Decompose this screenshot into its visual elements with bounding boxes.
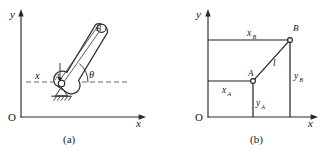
panel-b-origin-label: O — [195, 111, 203, 123]
panel-b-x-axis — [208, 114, 318, 119]
panel-a: y x O x A B θ (a) — [8, 8, 146, 146]
panel-a-rod-top-label: B — [96, 23, 101, 33]
panel-b-point-A-label: A — [247, 68, 254, 78]
panel-b-xb-subscript: B — [253, 34, 257, 40]
panel-b-ya-label: y A — [255, 98, 265, 110]
panel-b-xa-label: x A — [221, 85, 232, 97]
figure-root: y x O x A B θ (a) — [0, 0, 330, 151]
panel-b-ya-base: y — [255, 98, 261, 108]
panel-a-caption: (a) — [63, 133, 76, 146]
panel-a-ground-hatching — [54, 96, 72, 100]
panel-b-yb-label: y B — [293, 71, 303, 83]
panel-a-offset-label: x — [34, 70, 40, 81]
panel-a-origin-label: O — [8, 111, 16, 123]
panel-b-x-axis-label: x — [307, 117, 313, 129]
panel-a-y-arrowhead — [18, 9, 23, 16]
panel-b-xb-base: x — [246, 28, 252, 38]
panel-b: y x O A B l x B x A y A y — [195, 8, 318, 146]
panel-b-xa-base: x — [221, 85, 227, 95]
panel-b-y-axis — [205, 9, 210, 117]
technical-figure-svg: y x O x A B θ (a) — [0, 0, 330, 151]
panel-b-ya-subscript: A — [260, 104, 265, 110]
panel-b-node-A — [251, 79, 256, 84]
panel-b-node-B — [288, 38, 293, 43]
panel-b-xa-subscript: A — [227, 91, 232, 97]
panel-b-caption: (b) — [250, 133, 263, 146]
panel-a-angle-label: θ — [89, 69, 94, 80]
panel-a-pivot-label: A — [54, 72, 61, 82]
panel-a-y-axis-label: y — [9, 8, 15, 20]
panel-a-y-axis — [18, 9, 23, 117]
panel-b-yb-base: y — [293, 71, 299, 81]
panel-b-y-axis-label: y — [195, 8, 201, 20]
panel-b-point-B-label: B — [293, 23, 299, 33]
panel-b-segment-AB — [254, 41, 290, 81]
panel-b-y-arrowhead — [205, 9, 210, 16]
panel-a-x-axis-label: x — [135, 117, 141, 129]
panel-b-xb-label: x B — [246, 28, 257, 40]
panel-b-yb-subscript: B — [299, 77, 303, 83]
panel-a-x-axis — [21, 114, 146, 119]
panel-b-length-label: l — [273, 58, 276, 68]
